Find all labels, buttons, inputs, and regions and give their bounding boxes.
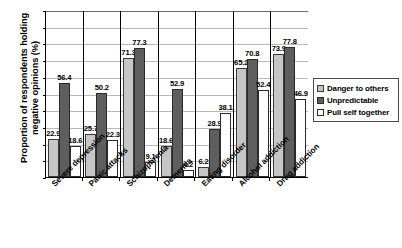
legend-swatch-icon (317, 97, 324, 104)
bar-chart: Proportion of respondents holding negati… (0, 0, 402, 248)
bar-value-label: 52.4 (256, 80, 270, 89)
chart-legend: Danger to others Unpredictable Pull self… (313, 78, 399, 122)
bar (48, 139, 59, 177)
bar-slot: 28.9 (209, 11, 220, 177)
bar (247, 59, 258, 177)
bar-value-label: 46.9 (294, 89, 308, 98)
bar-slot: 50.2 (96, 11, 107, 177)
legend-swatch-icon (317, 85, 324, 92)
legend-item-pull-self-together: Pull self together (317, 106, 395, 118)
bar-slot: 4.2 (183, 11, 194, 177)
bar-value-label: 6.2 (199, 157, 209, 166)
y-axis-tick-mark (43, 178, 46, 179)
bar (123, 58, 134, 177)
legend-label: Unpredictable (327, 96, 378, 105)
legend-item-unpredictable: Unpredictable (317, 94, 395, 106)
legend-item-danger-to-others: Danger to others (317, 82, 395, 94)
bar-value-label: 18.6 (68, 136, 82, 145)
bar-slot: 70.8 (247, 11, 258, 177)
legend-label: Danger to others (327, 84, 389, 93)
category-axis-labels: Severe depressionPanic attacksSchizophre… (45, 180, 308, 246)
bar-slot: 52.9 (172, 11, 183, 177)
bar (134, 48, 145, 177)
bar-slot: 22.9 (48, 11, 59, 177)
bar (284, 47, 295, 177)
bar-group-bars: 6.228.938.1 (196, 11, 233, 177)
legend-label: Pull self together (327, 108, 389, 117)
bar-slot: 6.2 (198, 11, 209, 177)
legend-swatch-icon (317, 109, 324, 116)
bar-slot: 56.4 (59, 11, 70, 177)
bar-group-bars: 22.956.418.6 (46, 11, 83, 177)
bar (236, 68, 247, 177)
bar-value-label: 38.1 (219, 103, 233, 112)
bar (273, 54, 284, 177)
bar-value-label: 22.3 (106, 130, 120, 139)
bar-slot: 77.3 (134, 11, 145, 177)
